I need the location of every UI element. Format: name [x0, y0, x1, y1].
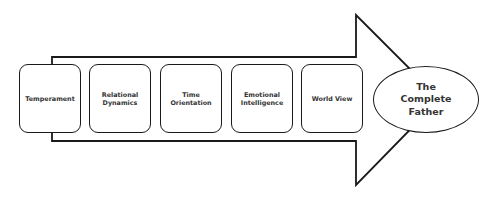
stage-box-emotional-intelligence: Emotional Intelligence [231, 64, 293, 133]
stage-box-temperament: Temperament [19, 64, 81, 133]
stage-label: Relational Dynamics [102, 91, 138, 107]
stage-label: Emotional Intelligence [241, 91, 283, 107]
stage-label: Time Orientation [170, 91, 211, 107]
stage-label: Temperament [25, 95, 74, 103]
stage-box-time-orientation: Time Orientation [160, 64, 222, 133]
stage-label: World View [312, 95, 353, 103]
stage-box-relational-dynamics: Relational Dynamics [89, 64, 151, 133]
outcome-label: The Complete Father [401, 81, 452, 118]
outcome-ellipse: The Complete Father [373, 66, 479, 133]
stage-box-world-view: World View [301, 64, 363, 133]
